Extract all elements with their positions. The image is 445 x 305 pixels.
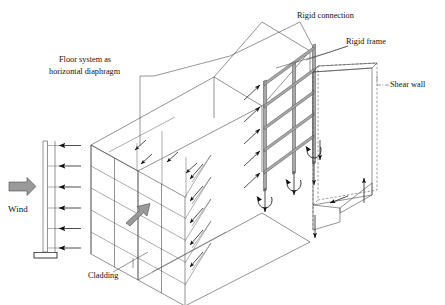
structural-diagram: Wind — [0, 0, 445, 305]
wind-tie-lines — [48, 146, 60, 249]
leader-lines — [113, 22, 389, 272]
frame-beam-3 — [264, 91, 314, 131]
roof-fold-line — [109, 117, 175, 152]
label-floor-system-line2: horizontal diaphragm — [49, 67, 121, 76]
cladding-facade — [91, 145, 185, 305]
leader-shear-wall — [377, 72, 389, 85]
fixed-base-support — [34, 253, 57, 259]
wind-direction-arrow — [9, 178, 36, 196]
leader-cladding-cross — [113, 252, 148, 272]
frame-lateral-load-arrows — [244, 85, 260, 188]
frame-column-2 — [293, 63, 296, 174]
wind-pressure-arrows — [59, 146, 81, 249]
roof-diaphragm — [91, 77, 262, 171]
wind-label: Wind — [8, 204, 28, 214]
leader-rigid-connection-2 — [230, 22, 300, 56]
frame-load-arrow-5 — [244, 173, 260, 188]
shear-wall-face — [313, 68, 372, 205]
wind-load-profile: Wind — [8, 141, 81, 258]
shear-wall-dashed-outline — [318, 63, 377, 200]
label-rigid-connection: Rigid connection — [297, 11, 355, 20]
slab-wedge-3 — [185, 199, 211, 241]
slab-wedge-2 — [185, 177, 211, 219]
slab-wedge-5 — [185, 243, 211, 285]
leader-floor-system — [140, 56, 230, 76]
base-diaphragm — [138, 213, 310, 305]
bearing-hatch-left — [313, 205, 340, 230]
leader-rigid-connection — [300, 22, 312, 45]
text-labels: Floor system as horizontal diaphragm Rig… — [49, 11, 426, 280]
rigid-frame — [244, 44, 321, 212]
frame-beam-5 — [264, 135, 314, 175]
base-fold-line — [152, 232, 226, 272]
frame-load-arrow-1 — [244, 85, 260, 100]
frame-load-arrow-4 — [244, 151, 260, 166]
lower-diaphragm-plane — [138, 213, 310, 305]
frame-beam-4 — [264, 113, 314, 153]
floor-slab-wedges — [185, 155, 211, 285]
label-floor-system-line1: Floor system as — [59, 55, 111, 64]
shear-wall-top-face — [313, 63, 377, 72]
shear-wall — [313, 63, 377, 238]
frame-load-arrow-3 — [244, 129, 260, 144]
label-rigid-frame: Rigid frame — [346, 37, 386, 46]
label-shear-wall: Shear wall — [390, 80, 426, 89]
shear-wall-base-bearing — [313, 183, 372, 230]
frame-beam-1 — [264, 47, 314, 87]
label-cladding: Cladding — [88, 271, 118, 280]
wind-arrow-glyph — [9, 178, 36, 196]
figure-root: Wind — [0, 0, 445, 305]
slab-wedge-1 — [185, 155, 211, 197]
frame-beam-2 — [264, 69, 314, 109]
support-hatch-plate — [34, 253, 57, 259]
